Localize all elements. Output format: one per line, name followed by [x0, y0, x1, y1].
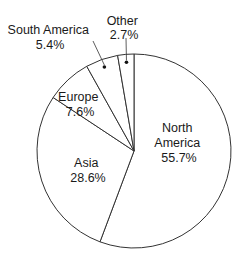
label-south-america-name: South America [8, 23, 89, 37]
label-europe-name: Europe [58, 90, 98, 104]
pie-slices [37, 54, 231, 248]
pie-chart: North America 55.7% Asia 28.6% Europe 7.… [0, 0, 243, 261]
label-asia: Asia 28.6% [70, 156, 105, 185]
label-asia-name: Asia [74, 156, 98, 170]
leader-dot-other [125, 61, 129, 65]
label-other-value: 2.7% [110, 28, 139, 42]
label-other: Other 2.7% [107, 14, 142, 42]
label-north-america-line1: North [162, 121, 193, 135]
label-south-america-value: 5.4% [36, 38, 65, 52]
label-south-america: South America 5.4% [8, 23, 93, 52]
label-asia-value: 28.6% [70, 171, 105, 185]
label-europe-value: 7.6% [66, 105, 95, 119]
label-other-name: Other [107, 14, 138, 28]
label-north-america-line2: America [154, 136, 200, 150]
label-north-america-value: 55.7% [161, 151, 196, 165]
leader-dot-south-america [103, 65, 107, 69]
